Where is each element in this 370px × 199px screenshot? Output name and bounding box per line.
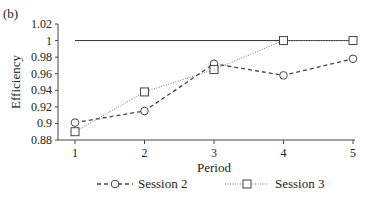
- circle-marker-icon: [280, 72, 288, 80]
- y-tick-label: 1.02: [31, 17, 52, 31]
- x-tick-label: 3: [211, 146, 217, 160]
- panel-label: (b): [3, 6, 18, 21]
- x-tick-label: 2: [142, 146, 148, 160]
- circle-marker-icon: [141, 107, 149, 115]
- circle-marker-icon: [111, 180, 119, 188]
- square-marker-icon: [349, 37, 357, 45]
- square-marker-icon: [141, 88, 149, 96]
- y-tick-label: 0.94: [31, 83, 52, 97]
- series-line-session-3: [75, 41, 353, 132]
- legend-item-session-2: Session 2: [97, 176, 187, 191]
- square-marker-icon: [243, 180, 251, 188]
- y-tick-label: 0.88: [31, 133, 52, 147]
- legend-label: Session 2: [138, 176, 187, 191]
- series-group: [71, 37, 357, 136]
- y-ticks: 1.0210.980.960.940.920.90.88: [31, 17, 58, 147]
- y-tick-label: 0.96: [31, 67, 52, 81]
- square-marker-icon: [210, 66, 218, 74]
- y-axis-label: Efficiency: [8, 55, 23, 109]
- square-marker-icon: [280, 37, 288, 45]
- y-tick-label: 1: [46, 34, 52, 48]
- y-tick-label: 0.92: [31, 100, 52, 114]
- legend-label: Session 3: [275, 176, 324, 191]
- x-axis-label: Period: [197, 160, 231, 175]
- y-tick-label: 0.98: [31, 50, 52, 64]
- x-ticks: 12345: [72, 140, 356, 160]
- x-tick-label: 1: [72, 146, 78, 160]
- square-marker-icon: [71, 128, 79, 136]
- circle-marker-icon: [71, 119, 79, 127]
- x-tick-label: 4: [281, 146, 287, 160]
- efficiency-chart: (b) 1.0210.980.960.940.920.90.88 12345 E…: [0, 0, 370, 199]
- circle-marker-icon: [349, 55, 357, 63]
- legend-item-session-3: Session 3: [225, 176, 324, 191]
- legend: Session 2 Session 3: [97, 176, 324, 191]
- x-tick-label: 5: [350, 146, 356, 160]
- y-tick-label: 0.9: [37, 116, 52, 130]
